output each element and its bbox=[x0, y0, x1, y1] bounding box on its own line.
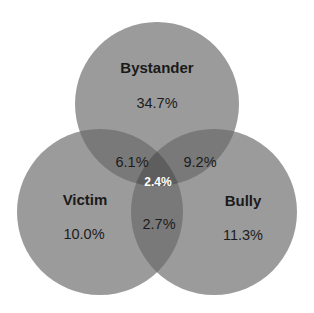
pct-victim-bully: 2.7% bbox=[142, 216, 175, 232]
label-bystander: Bystander bbox=[120, 59, 194, 76]
pct-bystander-bully: 9.2% bbox=[183, 154, 216, 170]
pct-victim-only: 10.0% bbox=[63, 226, 104, 242]
pct-bystander-only: 34.7% bbox=[136, 95, 177, 111]
label-bully: Bully bbox=[225, 192, 262, 209]
label-victim: Victim bbox=[63, 191, 108, 208]
pct-all-three: 2.4% bbox=[144, 175, 172, 189]
pct-bystander-victim: 6.1% bbox=[115, 154, 148, 170]
pct-bully-only: 11.3% bbox=[223, 227, 263, 243]
venn-diagram: Bystander 34.7% Victim 10.0% Bully 11.3%… bbox=[0, 0, 314, 313]
